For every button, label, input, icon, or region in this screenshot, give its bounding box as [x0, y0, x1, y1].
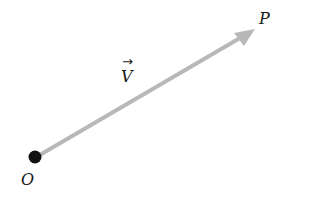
vector-label: V: [121, 67, 134, 86]
origin-point: [29, 151, 42, 164]
vector-diagram: O P V →: [0, 0, 318, 199]
endpoint-label: P: [258, 9, 270, 28]
vector-overarrow-icon: →: [122, 54, 133, 69]
vector-arrow: [38, 29, 255, 156]
origin-label: O: [21, 170, 34, 189]
